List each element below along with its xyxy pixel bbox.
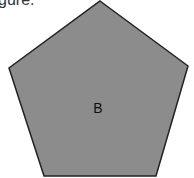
- pentagon-diagram: B: [0, 0, 194, 178]
- pentagon-shape: [9, 1, 188, 176]
- shape-label: B: [93, 100, 102, 116]
